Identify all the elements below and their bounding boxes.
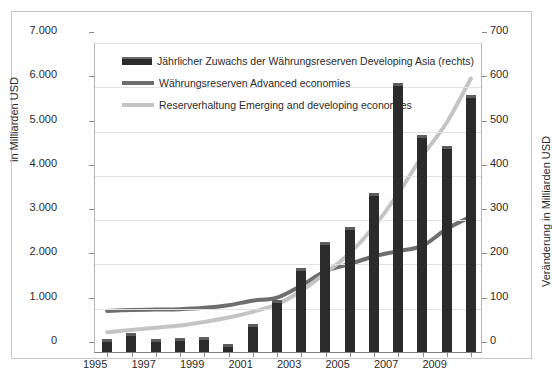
- x-tick-mark: [350, 353, 351, 357]
- x-axis-tick-2005: 2005: [325, 358, 349, 370]
- bar-1996: [126, 333, 136, 352]
- x-axis-tick-2001: 2001: [228, 358, 252, 370]
- left-tick-mark: [89, 342, 94, 343]
- bar-1998: [175, 338, 185, 352]
- left-axis-tick: 1.000: [0, 290, 57, 302]
- line-swatch-dark-icon: [122, 81, 154, 85]
- bar-2007: [393, 83, 403, 352]
- x-axis-tick-2003: 2003: [277, 358, 301, 370]
- chart-frame: in Milliarden USD Veränderung in Milliar…: [11, 11, 532, 359]
- x-tick-mark: [229, 353, 230, 357]
- left-tick-mark: [89, 298, 94, 299]
- x-tick-mark: [398, 353, 399, 357]
- right-axis-tick: 700: [490, 24, 550, 36]
- x-axis-tick-1999: 1999: [180, 358, 204, 370]
- x-tick-mark: [277, 353, 278, 357]
- right-tick-mark: [482, 298, 487, 299]
- left-axis-tick: 3.000: [0, 201, 57, 213]
- chart-legend: Jährlicher Zuwachs der Währungsreserven …: [122, 50, 452, 116]
- bar-2010: [466, 95, 476, 352]
- top-clipped-caption-artifact: [0, 0, 544, 9]
- right-axis-tick: 400: [490, 157, 550, 169]
- right-tick-mark: [482, 121, 487, 122]
- left-tick-mark: [89, 209, 94, 210]
- x-tick-mark: [204, 353, 205, 357]
- bar-2000: [223, 344, 233, 352]
- x-tick-mark: [253, 353, 254, 357]
- legend-item-bars: Jährlicher Zuwachs der Währungsreserven …: [122, 50, 452, 72]
- right-axis-tick: 500: [490, 113, 550, 125]
- bar-1995: [102, 339, 112, 352]
- right-axis-tick: 300: [490, 201, 550, 213]
- x-axis-tick-2009: 2009: [422, 358, 446, 370]
- left-axis-tick: 4.000: [0, 157, 57, 169]
- right-tick-mark: [482, 165, 487, 166]
- line-swatch-light-icon: [122, 103, 154, 107]
- bar-2003: [296, 268, 306, 352]
- bar-2009: [442, 146, 452, 352]
- bar-2005: [345, 227, 355, 352]
- x-tick-mark: [301, 353, 302, 357]
- bar-2004: [320, 242, 330, 352]
- left-axis-tick: 2.000: [0, 245, 57, 257]
- x-tick-mark: [447, 353, 448, 357]
- legend-item-advanced: Währungsreserven Advanced economies: [122, 72, 452, 94]
- right-axis-tick: 200: [490, 245, 550, 257]
- left-axis-tick: 5.000: [0, 113, 57, 125]
- left-axis-tick: 6.000: [0, 68, 57, 80]
- right-tick-mark: [482, 209, 487, 210]
- left-tick-mark: [89, 165, 94, 166]
- x-tick-mark: [326, 353, 327, 357]
- bar-2006: [369, 193, 379, 352]
- left-axis-tick: 0: [0, 334, 57, 346]
- bar-1999: [199, 337, 209, 352]
- x-tick-mark: [132, 353, 133, 357]
- right-axis-tick: 100: [490, 290, 550, 302]
- gridline: [95, 43, 481, 44]
- right-tick-mark: [482, 32, 487, 33]
- gridline: [95, 132, 481, 133]
- right-axis-tick: 0: [490, 334, 550, 346]
- legend-label: Währungsreserven Advanced economies: [159, 77, 350, 89]
- bar-2001: [248, 324, 258, 352]
- right-axis-tick: 600: [490, 68, 550, 80]
- x-axis-tick-1995: 1995: [83, 358, 107, 370]
- x-tick-mark: [156, 353, 157, 357]
- x-tick-mark: [180, 353, 181, 357]
- bar-swatch-icon: [122, 57, 152, 65]
- right-tick-mark: [482, 76, 487, 77]
- right-tick-mark: [482, 253, 487, 254]
- bar-2002: [272, 300, 282, 352]
- left-tick-mark: [89, 32, 94, 33]
- left-axis-tick: 7.000: [0, 24, 57, 36]
- legend-item-emerging: Reserverhaltung Emerging and developing …: [122, 94, 452, 116]
- right-tick-mark: [482, 342, 487, 343]
- x-axis-tick-1997: 1997: [131, 358, 155, 370]
- x-tick-mark: [107, 353, 108, 357]
- x-tick-mark: [423, 353, 424, 357]
- legend-label: Jährlicher Zuwachs der Währungsreserven …: [157, 55, 474, 67]
- left-tick-mark: [89, 121, 94, 122]
- bar-1997: [151, 339, 161, 352]
- left-tick-mark: [89, 76, 94, 77]
- x-axis-tick-2007: 2007: [374, 358, 398, 370]
- x-tick-mark: [471, 353, 472, 357]
- legend-label: Reserverhaltung Emerging and developing …: [159, 99, 412, 111]
- left-tick-mark: [89, 253, 94, 254]
- bar-2008: [417, 135, 427, 352]
- x-tick-mark: [374, 353, 375, 357]
